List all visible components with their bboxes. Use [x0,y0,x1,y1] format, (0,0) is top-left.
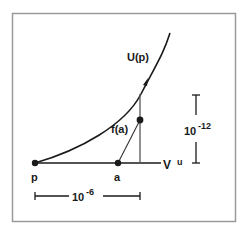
point-p-label: p [31,171,38,183]
horizontal-scale-exponent: -6 [86,187,94,197]
line-label-sup: u [177,157,183,167]
point-p [32,160,38,166]
point-a [115,160,121,166]
horizontal-scale-base: 10 [72,191,84,203]
line-label: V [163,158,171,172]
vertical-scale-exponent: -12 [198,121,211,131]
vertical-scale-base: 10 [184,125,196,137]
figure-frame [13,14,236,222]
curve-label: U(p) [127,51,149,63]
point-f-a [137,117,144,124]
diagram: U(p) f(a) p a V u 10 -6 10 -12 [0,0,247,234]
segment-label: f(a) [111,123,128,135]
line-label-base: V [163,158,171,172]
point-a-label: a [114,171,121,183]
